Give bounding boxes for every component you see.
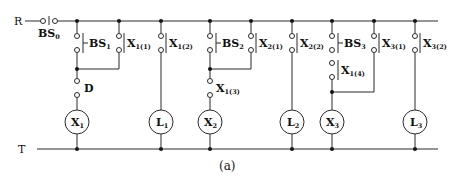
lamp-l3: L3: [403, 110, 427, 134]
figure-caption: (a): [219, 159, 236, 173]
bs0-label: BS: [38, 27, 55, 40]
main-switch-bs0[interactable]: BS0: [38, 16, 60, 41]
contact-x2-2[interactable]: X2(2): [297, 33, 324, 53]
pushbutton-bs3[interactable]: BS3: [338, 33, 366, 53]
rung-x2: BS2 X2(1) X1(3) X2: [198, 21, 283, 149]
contact-x1-2[interactable]: X1(2): [166, 33, 193, 53]
contact-x2-1[interactable]: X2(1): [256, 33, 283, 53]
rung-l3: X3(2) L3: [403, 21, 447, 149]
svg-text:X1(2): X1(2): [169, 37, 193, 51]
rung-l2: X2(2) L2: [280, 21, 324, 149]
ladder-diagram: R T BS0: [0, 0, 454, 182]
svg-text:X3(2): X3(2): [423, 37, 447, 51]
contact-x3-2[interactable]: X3(2): [420, 33, 447, 53]
contact-x3-1[interactable]: X3(1): [379, 33, 406, 53]
coil-x3: X3: [320, 110, 344, 134]
contact-x1-4[interactable]: X1(4): [338, 60, 365, 80]
rung-l1: X1(2) L1: [149, 21, 193, 149]
svg-text:BS3: BS3: [344, 37, 366, 51]
lamp-l2: L2: [280, 110, 304, 134]
svg-text:BS1: BS1: [89, 37, 111, 51]
svg-text:X1(4): X1(4): [341, 64, 365, 78]
lamp-l1: L1: [149, 110, 173, 134]
contact-x1-3[interactable]: X1(3): [216, 82, 240, 96]
svg-text:BS0: BS0: [38, 27, 60, 41]
coil-x1: X1: [65, 110, 89, 134]
svg-text:X3(1): X3(1): [382, 37, 406, 51]
coil-x2: X2: [198, 110, 222, 134]
svg-text:X1(1): X1(1): [127, 37, 151, 51]
pushbutton-bs1[interactable]: BS1: [83, 33, 111, 53]
rail-label-r: R: [14, 15, 23, 28]
rail-label-t: T: [18, 143, 26, 156]
contact-d-label: D: [84, 82, 94, 95]
rung-x3: BS3 X1(4) X3(1) X3: [320, 21, 406, 149]
pushbutton-bs2[interactable]: BS2: [216, 33, 244, 53]
contact-x1-1[interactable]: X1(1): [124, 33, 151, 53]
svg-text:X2(1): X2(1): [259, 37, 283, 51]
svg-text:X2(2): X2(2): [300, 37, 324, 51]
rung-x1: BS1 X1(1) D X1: [65, 21, 151, 149]
svg-text:BS2: BS2: [222, 37, 244, 51]
